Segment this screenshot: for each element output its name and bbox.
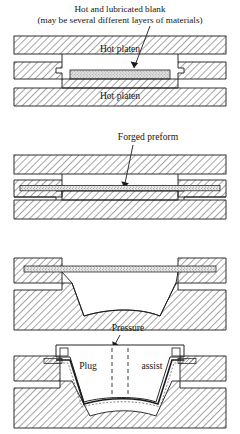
stage1-hot-platen-upper-label: Hot platen: [100, 43, 140, 54]
stage2-lower-die-center: [62, 191, 178, 200]
stage-2-group: Forged preform: [14, 131, 226, 219]
stage1-upper-die-left: [14, 62, 62, 79]
stage4-pressure-label: Pressure: [112, 322, 145, 333]
stage4-flange-right: [178, 359, 196, 364]
stage1-hot-blank: [70, 70, 170, 79]
stage4-plug-notch-right: [172, 348, 180, 356]
stage-4-group: Pressure Plug assist: [14, 322, 226, 428]
stage4-assist-label: assist: [142, 360, 163, 371]
stage-1-group: Hot platen Hot platen: [14, 26, 226, 106]
stage4-flange-left: [44, 359, 62, 364]
stage1-upper-die-right: [178, 62, 226, 79]
process-diagram-svg: Hot platen Hot platen Forged preform: [0, 0, 240, 434]
stage1-lower-die-center: [62, 79, 178, 88]
stage3-preform-sheet: [24, 266, 216, 272]
stage2-punch-edges: [62, 174, 178, 180]
figure-root: Hot and lubricated blank (may be several…: [0, 0, 240, 434]
stage-3-group: [14, 258, 226, 330]
stage4-plug-label: Plug: [79, 360, 97, 371]
stage4-plug-notch-left: [60, 348, 68, 356]
stage2-forged-preform: [20, 185, 220, 190]
stage2-upper-platen: [14, 155, 226, 174]
stage1-hot-platen-lower-label: Hot platen: [100, 90, 140, 101]
stage2-forged-preform-label: Forged preform: [118, 131, 179, 142]
stage1-leader-arrowhead: [131, 62, 139, 68]
stage2-lower-platen: [14, 200, 226, 219]
